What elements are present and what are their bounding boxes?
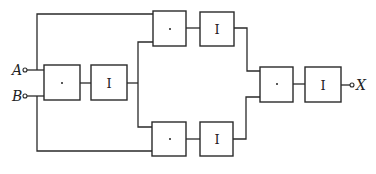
block-inv1: I xyxy=(91,65,127,100)
wire-b-to-and3 xyxy=(37,96,152,151)
wire-inv2-to-and4 xyxy=(234,28,260,71)
wire-a-to-and2 xyxy=(37,14,153,70)
wire-inv1-to-and3 xyxy=(138,83,152,127)
and-dot-icon xyxy=(169,138,171,140)
inverter-label: I xyxy=(320,78,325,93)
input-b-label: B xyxy=(11,88,22,104)
inverter-label: I xyxy=(214,22,219,37)
terminal-a-icon xyxy=(23,68,27,72)
output-x-label: X xyxy=(355,77,367,93)
logic-diagram: I I I I A B X xyxy=(0,0,376,174)
block-inv2: I xyxy=(200,12,234,46)
input-a: A xyxy=(10,62,27,78)
block-inv4: I xyxy=(305,67,341,102)
block-and3 xyxy=(152,122,186,156)
output-x: X xyxy=(350,77,367,93)
wire-inv1-to-and2 xyxy=(138,42,153,83)
block-inv3: I xyxy=(200,122,233,156)
block-and2 xyxy=(153,11,186,46)
terminal-x-icon xyxy=(350,83,354,87)
input-b: B xyxy=(11,88,27,104)
inverter-label: I xyxy=(106,76,111,91)
block-and4 xyxy=(260,67,293,102)
input-a-label: A xyxy=(10,62,22,78)
and-dot-icon xyxy=(61,82,63,84)
and-dot-icon xyxy=(169,28,171,30)
and-dot-icon xyxy=(276,83,278,85)
terminal-b-icon xyxy=(23,94,27,98)
inverter-label: I xyxy=(214,132,219,147)
block-and1 xyxy=(44,65,80,100)
wire-inv3-to-and4 xyxy=(233,97,260,139)
